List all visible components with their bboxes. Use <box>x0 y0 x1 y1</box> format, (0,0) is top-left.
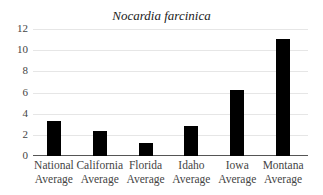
x-tick-label: MontanaAverage <box>259 158 307 186</box>
bar <box>139 143 153 156</box>
x-label-line2: Average <box>76 172 124 186</box>
y-tick-label: 2 <box>0 128 28 140</box>
x-tick-label: IdahoAverage <box>167 158 215 186</box>
x-tick-label: FloridaAverage <box>122 158 170 186</box>
gridline <box>33 50 308 51</box>
x-label-line2: Average <box>122 172 170 186</box>
x-label-line2: Average <box>30 172 78 186</box>
x-axis-line <box>33 155 308 156</box>
x-tick-label: IowaAverage <box>213 158 261 186</box>
y-tick-label: 6 <box>0 86 28 98</box>
gridline <box>33 93 308 94</box>
y-tick-label: 10 <box>0 43 28 55</box>
y-tick-label: 12 <box>0 22 28 34</box>
y-tick-label: 8 <box>0 64 28 76</box>
x-label-line1: National <box>30 158 78 172</box>
bar <box>93 131 107 156</box>
x-label-line2: Average <box>259 172 307 186</box>
plot-area <box>33 29 308 156</box>
x-label-line2: Average <box>167 172 215 186</box>
bar <box>230 90 244 156</box>
x-tick-label: NationalAverage <box>30 158 78 186</box>
x-label-line1: Idaho <box>167 158 215 172</box>
gridline <box>33 114 308 115</box>
gridline <box>33 71 308 72</box>
x-label-line2: Average <box>213 172 261 186</box>
x-label-line1: California <box>76 158 124 172</box>
chart-title: Nocardia farcinica <box>0 8 323 24</box>
y-tick-label: 4 <box>0 107 28 119</box>
x-label-line1: Florida <box>122 158 170 172</box>
x-label-line1: Montana <box>259 158 307 172</box>
x-label-line1: Iowa <box>213 158 261 172</box>
y-tick-label: 0 <box>0 149 28 161</box>
gridline <box>33 135 308 136</box>
bar <box>184 126 198 156</box>
x-tick-label: CaliforniaAverage <box>76 158 124 186</box>
bar <box>47 121 61 156</box>
bar <box>276 39 290 156</box>
gridline <box>33 29 308 30</box>
